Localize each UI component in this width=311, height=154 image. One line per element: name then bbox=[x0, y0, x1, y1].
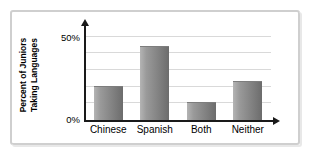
y-axis-tick-label-50: 50% bbox=[40, 32, 80, 43]
bar-neither bbox=[233, 81, 262, 120]
y-axis-title-line1: Percent of Juniors bbox=[18, 38, 29, 113]
bar-both bbox=[187, 102, 216, 120]
gridline bbox=[85, 69, 271, 70]
x-axis-labels: ChineseSpanishBothNeither bbox=[85, 124, 275, 140]
y-axis-title-line2: Taking Languages bbox=[29, 38, 40, 113]
plot-area bbox=[85, 30, 271, 120]
bar-chart-figure: Percent of Juniors Taking Languages 50% … bbox=[0, 0, 311, 154]
x-axis-label-both: Both bbox=[178, 124, 225, 135]
gridline bbox=[85, 52, 271, 53]
x-axis-label-chinese: Chinese bbox=[85, 124, 132, 135]
x-axis-line bbox=[84, 120, 274, 122]
y-axis-tick-label-0: 0% bbox=[40, 114, 80, 125]
y-axis-line bbox=[84, 25, 86, 122]
x-axis-label-spanish: Spanish bbox=[132, 124, 179, 135]
x-axis-label-neither: Neither bbox=[225, 124, 272, 135]
bar-chinese bbox=[94, 86, 123, 120]
gridline bbox=[85, 36, 271, 37]
y-axis-arrow-icon bbox=[81, 19, 89, 26]
bar-spanish bbox=[140, 46, 169, 120]
